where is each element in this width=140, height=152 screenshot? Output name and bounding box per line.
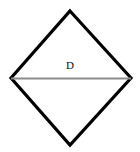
hazard-placard: D — [0, 0, 140, 152]
placard-label: D — [66, 59, 74, 71]
placard-diagram: D — [0, 0, 140, 152]
